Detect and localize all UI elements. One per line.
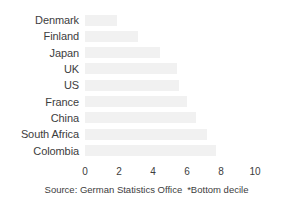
category-label-uk: UK: [0, 63, 79, 75]
x-axis-tick: 6: [184, 166, 190, 178]
chart-row: France: [0, 93, 293, 109]
chart-row: Japan: [0, 45, 293, 61]
bar-track: [79, 12, 293, 28]
bar-france: [85, 96, 187, 107]
chart-row: Colombia: [0, 142, 293, 158]
bar-track: [79, 93, 293, 109]
bar-track: [79, 142, 293, 158]
category-label-colombia: Colombia: [0, 145, 79, 157]
chart-row: Denmark: [0, 12, 293, 28]
x-axis-tick: 2: [116, 166, 122, 178]
plot-area: Denmark Finland Japan UK US: [0, 12, 293, 159]
bar-chart: Denmark Finland Japan UK US: [0, 0, 293, 206]
chart-footnote: Source: German Statistics Office*Bottom …: [0, 184, 293, 196]
category-label-finland: Finland: [0, 30, 79, 42]
category-label-china: China: [0, 112, 79, 124]
x-axis-tick: 8: [218, 166, 224, 178]
bar-denmark: [85, 15, 117, 26]
chart-row: US: [0, 77, 293, 93]
x-axis-tick: 10: [249, 166, 260, 178]
bar-track: [79, 77, 293, 93]
x-axis: 0 2 4 6 8 10: [0, 166, 293, 180]
category-label-denmark: Denmark: [0, 14, 79, 26]
category-label-south-africa: South Africa: [0, 128, 79, 140]
chart-row: Finland: [0, 28, 293, 44]
bar-track: [79, 45, 293, 61]
chart-row: China: [0, 110, 293, 126]
footnote-text: *Bottom decile: [187, 184, 248, 195]
bar-track: [79, 61, 293, 77]
x-axis-tick: 4: [150, 166, 156, 178]
bar-uk: [85, 63, 177, 74]
bar-south-africa: [85, 129, 207, 140]
x-axis-tick: 0: [82, 166, 88, 178]
bar-track: [79, 126, 293, 142]
bar-finland: [85, 31, 138, 42]
category-label-japan: Japan: [0, 47, 79, 59]
bar-track: [79, 110, 293, 126]
source-text: Source: German Statistics Office: [45, 184, 183, 195]
chart-row: South Africa: [0, 126, 293, 142]
bar-us: [85, 80, 179, 91]
bar-japan: [85, 47, 160, 58]
category-label-france: France: [0, 96, 79, 108]
bar-track: [79, 28, 293, 44]
category-label-us: US: [0, 79, 79, 91]
chart-row: UK: [0, 61, 293, 77]
bar-colombia: [85, 145, 216, 156]
bar-china: [85, 112, 196, 123]
